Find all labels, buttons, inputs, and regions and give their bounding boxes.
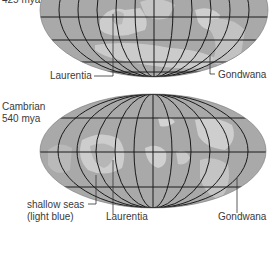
- gondwana-label-bottom: Gondwana: [218, 211, 266, 223]
- cambrian-label: Cambrian: [2, 101, 45, 113]
- gondwana-label-top: Gondwana: [218, 69, 266, 81]
- laurentia-label-top: Laurentia: [50, 70, 92, 82]
- shallow-seas-label: shallow seas: [27, 199, 84, 211]
- laurentia-label-bottom: Laurentia: [106, 211, 148, 223]
- cambrian-age-label: 540 mya: [2, 113, 40, 125]
- lower-world-map: [40, 94, 266, 214]
- upper-world-map: [40, 0, 268, 77]
- shallow-seas-note: (light blue): [27, 211, 74, 223]
- upper-period-label: 425 mya: [2, 0, 40, 6]
